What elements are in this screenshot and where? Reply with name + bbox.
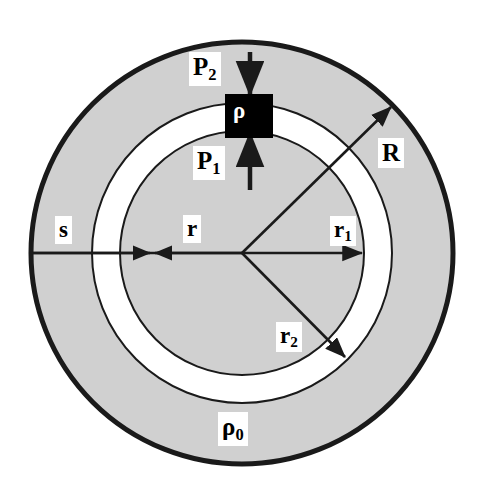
label-r: r bbox=[183, 215, 201, 243]
label-rho0: ρ0 bbox=[218, 412, 248, 446]
label-P1: P1 bbox=[193, 146, 225, 180]
figure-canvas: P2 P1 ρ R s r r1 r2 ρ0 bbox=[0, 0, 483, 495]
label-s: s bbox=[55, 216, 72, 244]
label-R: R bbox=[378, 138, 404, 168]
label-mass-element-rho: ρ bbox=[233, 99, 245, 122]
label-r2: r2 bbox=[276, 322, 302, 352]
label-P2: P2 bbox=[189, 52, 221, 86]
label-r1: r1 bbox=[330, 216, 356, 246]
